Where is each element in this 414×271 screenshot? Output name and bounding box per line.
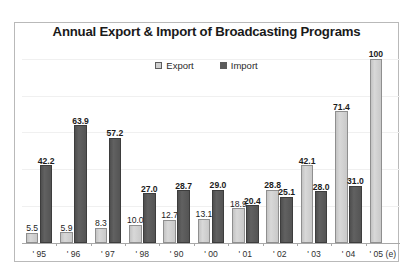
x-tick-label-3: ' 98 [125, 249, 159, 259]
bar-group: 10.027.0 [125, 44, 159, 243]
bar-value-label: 42.2 [38, 157, 55, 166]
x-tick-label-5: ' 00 [194, 249, 228, 259]
bar-export-0: 5.5 [26, 233, 39, 243]
bar-import-3: 27.0 [143, 193, 156, 243]
bars-layer: 5.542.25.963.98.357.210.027.012.728.713.… [22, 44, 400, 243]
bar-import-7: 25.1 [280, 197, 293, 243]
bar-group: 12.728.7 [159, 44, 193, 243]
bar-value-label: 57.2 [107, 129, 124, 138]
x-tick-mark [125, 243, 126, 246]
x-tick-mark [91, 243, 92, 246]
bar-value-label: 27.0 [141, 185, 158, 194]
bar-group: 5.542.2 [22, 44, 56, 243]
x-tick-label-8: ' 03 [297, 249, 331, 259]
bar-import-6: 20.4 [246, 205, 259, 243]
bar-value-label: 5.9 [61, 224, 73, 233]
bar-value-label: 100 [369, 50, 383, 59]
x-tick-label-1: ' 96 [56, 249, 90, 259]
bar-export-2: 8.3 [95, 228, 108, 243]
bar-import-8: 28.0 [315, 191, 328, 243]
bar-group: 100 [366, 44, 400, 243]
bar-group: 42.128.0 [297, 44, 331, 243]
x-tick-mark [366, 243, 367, 246]
bar-value-label: 42.1 [299, 157, 316, 166]
bar-export-6: 18.9 [232, 208, 245, 243]
x-tick-mark [263, 243, 264, 246]
x-tick-label-2: ' 97 [91, 249, 125, 259]
bar-group: 18.920.4 [228, 44, 262, 243]
bar-value-label: 31.0 [347, 177, 364, 186]
x-tick-mark [159, 243, 160, 246]
bar-export-5: 13.1 [198, 219, 211, 243]
bar-export-1: 5.9 [60, 232, 73, 243]
bar-value-label: 63.9 [72, 117, 89, 126]
x-tick-mark [228, 243, 229, 246]
bar-group: 28.825.1 [263, 44, 297, 243]
bar-group: 71.431.0 [331, 44, 365, 243]
bar-value-label: 28.0 [313, 183, 330, 192]
bar-value-label: 10.0 [127, 216, 144, 225]
bar-value-label: 12.7 [161, 211, 178, 220]
bar-import-5: 29.0 [212, 190, 225, 243]
bar-export-7: 28.8 [266, 190, 279, 243]
bar-value-label: 71.4 [333, 103, 350, 112]
chart-title: Annual Export & Import of Broadcasting P… [14, 24, 399, 39]
x-tick-mark [56, 243, 57, 246]
bar-value-label: 29.0 [210, 181, 227, 190]
bar-group: 8.357.2 [91, 44, 125, 243]
x-tick-mark [331, 243, 332, 246]
bar-export-10: 100 [370, 59, 383, 243]
x-tick-label-10: ' 05 (e) [366, 249, 400, 259]
x-tick-label-6: ' 01 [228, 249, 262, 259]
bar-import-4: 28.7 [177, 190, 190, 243]
x-tick-mark [297, 243, 298, 246]
x-axis-line [22, 243, 400, 244]
bar-value-label: 5.5 [26, 224, 38, 233]
bar-export-8: 42.1 [301, 165, 314, 243]
bar-value-label: 8.3 [95, 219, 107, 228]
bar-import-1: 63.9 [74, 125, 87, 243]
bar-value-label: 20.4 [244, 197, 261, 206]
bar-value-label: 13.1 [196, 210, 213, 219]
bar-import-9: 31.0 [349, 186, 362, 243]
bar-import-2: 57.2 [109, 138, 122, 243]
x-tick-mark [194, 243, 195, 246]
x-tick-label-9: ' 04 [331, 249, 365, 259]
x-tick-label-0: ' 95 [22, 249, 56, 259]
bar-export-3: 10.0 [129, 225, 142, 243]
x-axis-labels: ' 95 ' 96 ' 97 ' 98 ' 90 ' 00 ' 01 ' 02 … [22, 249, 400, 263]
bar-value-label: 28.7 [175, 182, 192, 191]
bar-export-4: 12.7 [163, 220, 176, 243]
bar-value-label: 25.1 [278, 188, 295, 197]
bar-import-0: 42.2 [40, 165, 53, 243]
bar-export-9: 71.4 [335, 111, 348, 243]
x-tick-label-4: ' 90 [159, 249, 193, 259]
bar-group: 5.963.9 [56, 44, 90, 243]
x-tick-label-7: ' 02 [263, 249, 297, 259]
bar-group: 13.129.0 [194, 44, 228, 243]
